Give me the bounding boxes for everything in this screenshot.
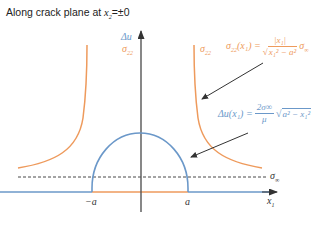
opening-fraction: 2σ∞ μ	[255, 103, 274, 124]
y-label-sigma22: σ22	[122, 43, 133, 56]
tick-pos-a: a	[185, 196, 190, 207]
stress-curve-label: σ22	[200, 43, 211, 56]
opening-formula: Δu(x₁) = 2σ∞ μ √a² − x₁²	[218, 103, 311, 124]
crack-opening-curve	[92, 133, 188, 192]
y-label-delta-u: Δu	[121, 31, 132, 42]
x-axis-label: x1	[267, 195, 274, 208]
stress-formula: σ22(x₁) = |x₁| √x₁² − a² σ∞	[226, 36, 309, 57]
far-field-label: σ∞	[270, 170, 279, 183]
stress-pointer-arrow	[202, 63, 263, 99]
stress-fraction: |x₁| √x₁² − a²	[263, 36, 298, 57]
stress-curve-left	[18, 45, 87, 168]
stress-factor: σ∞	[299, 40, 308, 53]
tick-neg-a: −a	[85, 196, 97, 207]
stress-formula-lhs: σ22(x₁) =	[226, 40, 261, 53]
opening-radical: √a² − x₁²	[276, 108, 311, 119]
opening-formula-lhs: Δu(x₁) =	[218, 108, 253, 119]
